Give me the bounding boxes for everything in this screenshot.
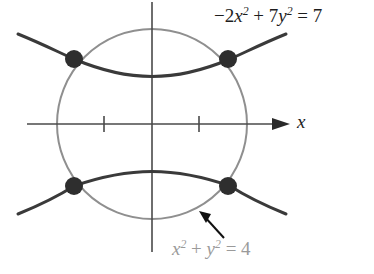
intersection-top-right	[219, 50, 237, 68]
hyperbola-equation-label: −2x2 + 7y2 = 7	[214, 6, 322, 25]
hyperbola-eq-plus: + 7	[249, 5, 279, 26]
conic-intersection-figure: −2x2 + 7y2 = 7 x2 + y2 = 4 x	[0, 0, 374, 274]
hyperbola-eq-y-base: y	[278, 5, 286, 26]
circle-eq-y-base: y	[207, 238, 215, 259]
circle-eq-equals: = 4	[221, 238, 251, 259]
x-axis-arrowhead	[272, 118, 290, 130]
hyperbola-eq-lead: −2	[214, 5, 234, 26]
intersection-top-left	[65, 50, 83, 68]
intersection-bottom-right	[219, 177, 237, 195]
hyperbola-eq-x-base: x	[234, 5, 242, 26]
circle-eq-plus: +	[186, 238, 206, 259]
x-axis-label: x	[297, 112, 305, 131]
hyperbola-eq-equals: = 7	[293, 5, 323, 26]
circle-equation-label: x2 + y2 = 4	[172, 239, 251, 258]
figure-canvas	[0, 0, 374, 274]
intersection-bottom-left	[65, 177, 83, 195]
